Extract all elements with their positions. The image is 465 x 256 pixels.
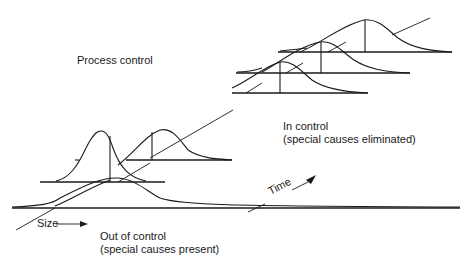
in-control-label: In control: [283, 120, 328, 133]
out-of-control-sublabel: (special causes present): [100, 243, 219, 256]
distribution-out-of-control-shifted: [118, 130, 232, 165]
distribution-in-control-1: [232, 62, 368, 93]
size-arrow-icon: [56, 221, 88, 227]
out-of-control-label: Out of control: [100, 230, 166, 243]
in-control-sublabel: (special causes eliminated): [283, 133, 416, 146]
time-axis-line: [16, 18, 430, 230]
size-axis-label: Size: [37, 217, 58, 230]
diagram-title: Process control: [77, 54, 153, 67]
process-control-diagram: [0, 0, 465, 256]
